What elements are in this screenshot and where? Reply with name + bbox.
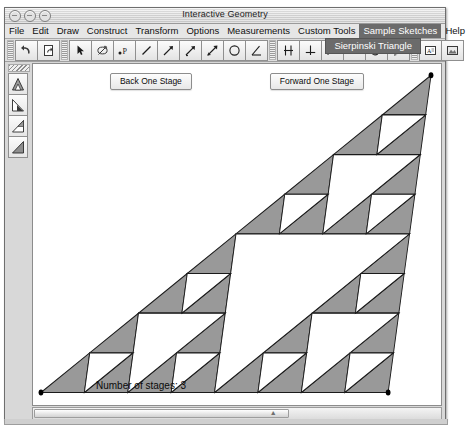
sierpinski-sub-triangle: [187, 234, 236, 274]
tool-palette: [5, 62, 32, 420]
forward-one-stage-button[interactable]: Forward One Stage: [270, 73, 364, 90]
point-label-icon[interactable]: P: [113, 40, 136, 61]
sample-sketches-dropdown: Sierpinski Triangle: [325, 38, 421, 54]
menu-item-custom-tools[interactable]: Custom Tools: [294, 24, 359, 38]
sierpinski-sub-triangle: [41, 353, 90, 393]
menu-item-construct[interactable]: Construct: [83, 24, 132, 38]
window-body: Back One Stage Forward One Stage Number …: [5, 62, 445, 420]
perpendicular-icon[interactable]: [299, 40, 322, 61]
menu-option-sierpinski-triangle[interactable]: Sierpinski Triangle: [326, 39, 420, 53]
toolbar-drag-grip-1[interactable]: [7, 40, 14, 60]
sierpinski-triangle: [33, 64, 441, 405]
freehand-draw-icon[interactable]: [91, 40, 114, 61]
image-icon[interactable]: [441, 40, 464, 61]
line-icon[interactable]: [201, 40, 224, 61]
triangle-vertex-bottom-left[interactable]: [39, 389, 44, 395]
sierpinski-sub-triangle: [236, 194, 285, 234]
menu-item-file[interactable]: File: [5, 24, 28, 38]
redo-icon[interactable]: [37, 40, 60, 61]
window-title-bar[interactable]: Interactive Geometry: [5, 8, 445, 24]
stage-triangle-solid-icon[interactable]: [8, 136, 28, 158]
window-bottom-edge: [4, 419, 448, 425]
stage-triangle-right-icon[interactable]: [8, 115, 28, 137]
window-title: Interactive Geometry: [5, 9, 445, 19]
canvas-area: Back One Stage Forward One Stage Number …: [32, 62, 445, 420]
arrow-select-icon[interactable]: [69, 40, 92, 61]
sierpinski-sub-triangle: [285, 155, 334, 195]
sierpinski-sub-triangle: [138, 274, 187, 314]
menu-item-help[interactable]: Help: [441, 24, 469, 38]
menu-item-edit[interactable]: Edit: [28, 24, 52, 38]
text-label-icon[interactable]: A: [419, 40, 442, 61]
back-one-stage-button[interactable]: Back One Stage: [110, 73, 192, 90]
scrollbar-marker: ▲: [270, 409, 277, 416]
ray-icon[interactable]: [157, 40, 180, 61]
svg-text:P: P: [123, 46, 128, 55]
toolbar-drag-grip-3[interactable]: [269, 40, 276, 60]
sketch-canvas[interactable]: Back One Stage Forward One Stage Number …: [32, 63, 442, 406]
menu-item-transform[interactable]: Transform: [132, 24, 183, 38]
sierpinski-sub-triangle: [90, 313, 139, 353]
application-window: Interactive Geometry File Edit Draw Cons…: [4, 7, 446, 421]
scrollbar-thumb[interactable]: [34, 409, 289, 418]
menu-item-sample-sketches[interactable]: Sample Sketches: [359, 24, 441, 38]
svg-text:A: A: [427, 48, 432, 54]
sierpinski-sub-triangle: [334, 115, 383, 155]
parallel-icon[interactable]: [277, 40, 300, 61]
vector-icon[interactable]: [179, 40, 202, 61]
angle-icon[interactable]: [245, 40, 268, 61]
status-text: Number of stages: 3: [96, 380, 186, 391]
menu-bar: File Edit Draw Construct Transform Optio…: [5, 24, 445, 39]
toolbar-drag-grip-2[interactable]: [61, 40, 68, 60]
menu-item-draw[interactable]: Draw: [53, 24, 83, 38]
menu-item-measurements[interactable]: Measurements: [223, 24, 294, 38]
undo-icon[interactable]: [15, 40, 38, 61]
circle-icon[interactable]: [223, 40, 246, 61]
stage-controls: Back One Stage Forward One Stage: [33, 73, 441, 90]
stage-triangle-left-icon[interactable]: [8, 94, 28, 116]
triangle-vertex-bottom-right[interactable]: [386, 389, 391, 395]
stage-triangle-full-icon[interactable]: [8, 73, 28, 95]
palette-drag-handle[interactable]: [8, 64, 30, 72]
menu-item-options[interactable]: Options: [182, 24, 223, 38]
segment-icon[interactable]: [135, 40, 158, 61]
